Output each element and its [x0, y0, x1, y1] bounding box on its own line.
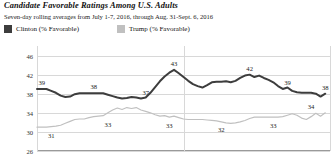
- legend-label-trump: Trump (% Favorable): [129, 25, 190, 33]
- legend-swatch-clinton: [4, 25, 12, 33]
- data-point-label: 32: [218, 125, 225, 132]
- data-point-label: 39: [38, 78, 45, 85]
- data-point-label: 33: [166, 122, 173, 129]
- y-axis: 464238343026: [0, 46, 37, 151]
- series-canvas: [37, 46, 330, 151]
- legend-swatch-trump: [117, 25, 125, 33]
- gridline-vertical: [330, 46, 331, 151]
- y-axis-tick-label: 26: [26, 148, 33, 155]
- y-axis-tick-label: 30: [26, 128, 33, 135]
- data-point-label: 34: [308, 102, 315, 109]
- y-axis-tick-label: 38: [26, 90, 33, 97]
- chart-page: Candidate Favorable Ratings Among U.S. A…: [0, 0, 332, 155]
- data-point-label: 39: [284, 78, 291, 85]
- chart-subtitle: Seven-day rolling averages from July 1-7…: [4, 13, 213, 20]
- series-line: [37, 108, 325, 128]
- data-point-label: 37: [142, 88, 149, 95]
- y-axis-tick-label: 34: [26, 109, 33, 116]
- gridline-horizontal: [37, 151, 330, 152]
- series-line: [37, 70, 325, 99]
- data-point-label: 42: [246, 64, 253, 71]
- y-axis-tick-label: 46: [26, 52, 33, 59]
- y-axis-tick-label: 42: [26, 71, 33, 78]
- data-point-label: 33: [105, 120, 112, 127]
- plot-area: 39383743423938313333323334: [37, 46, 330, 151]
- data-point-label: 38: [90, 83, 97, 90]
- data-point-label: 31: [48, 131, 55, 138]
- data-point-label: 33: [270, 122, 277, 129]
- data-point-label: 43: [171, 59, 178, 66]
- legend-label-clinton: Clinton (% Favorable): [16, 25, 79, 33]
- data-point-label: 38: [322, 83, 329, 90]
- legend-item-trump: Trump (% Favorable): [117, 25, 190, 33]
- legend-item-clinton: Clinton (% Favorable): [4, 25, 79, 33]
- page-title: Candidate Favorable Ratings Among U.S. A…: [4, 1, 178, 10]
